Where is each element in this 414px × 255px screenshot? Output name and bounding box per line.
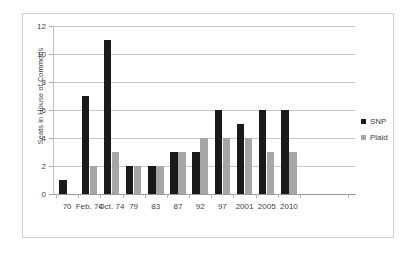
x-tick-mark-5: [189, 194, 190, 198]
x-tick-mark-2: [123, 194, 124, 198]
x-tick-label-87: 87: [174, 202, 183, 211]
x-tick-label-2005: 2005: [258, 202, 276, 211]
x-tick-mark-3: [145, 194, 146, 198]
y-tick-mark-8: [49, 82, 53, 83]
bar-group-79: [123, 26, 145, 194]
plot-area: 024681012 70Feb. 74Oct. 7479838792972001…: [53, 26, 356, 194]
y-tick-mark-10: [49, 54, 53, 55]
y-tick-mark-4: [49, 138, 53, 139]
x-tick-label-2010: 2010: [280, 202, 298, 211]
legend-label-snp: SNP: [370, 117, 386, 126]
bar-snp-2010[interactable]: [281, 110, 288, 194]
bar-group-2005: [256, 26, 278, 194]
x-tick-mark-7: [233, 194, 234, 198]
x-tick-mark-6: [211, 194, 212, 198]
x-tick-label-83: 83: [151, 202, 160, 211]
x-tick-label-2001: 2001: [236, 202, 254, 211]
y-tick-mark-12: [49, 26, 53, 27]
bar-snp-97[interactable]: [215, 110, 222, 194]
y-tick-mark-0: [49, 194, 53, 195]
bar-snp-87[interactable]: [170, 152, 177, 194]
legend-swatch-plaid-icon: [361, 135, 366, 140]
bar-group-Feb74: [78, 26, 100, 194]
x-tick-label-79: 79: [129, 202, 138, 211]
x-tick-mark-10: [300, 194, 301, 198]
legend-label-plaid: Plaid: [370, 133, 388, 142]
bar-plaid-2001[interactable]: [245, 138, 252, 194]
bar-snp-70[interactable]: [59, 180, 66, 194]
legend-swatch-snp-icon: [361, 119, 366, 124]
x-tick-mark-1: [100, 194, 101, 198]
bar-group-2010: [278, 26, 300, 194]
bar-plaid-Oct74[interactable]: [112, 152, 119, 194]
bar-plaid-Feb74[interactable]: [90, 166, 97, 194]
x-tick-label-70: 70: [63, 202, 72, 211]
bar-plaid-97[interactable]: [223, 138, 230, 194]
bar-plaid-87[interactable]: [178, 152, 185, 194]
x-tick-mark-9: [278, 194, 279, 198]
x-tick-mark-end: [348, 194, 349, 198]
gridline-0: [53, 194, 356, 195]
legend-entry-snp[interactable]: SNP: [361, 113, 388, 129]
bar-group-2001: [233, 26, 255, 194]
bar-group-83: [145, 26, 167, 194]
x-tick-label-92: 92: [196, 202, 205, 211]
x-tick-mark-0: [78, 194, 79, 198]
bar-group-97: [211, 26, 233, 194]
bar-snp-Feb74[interactable]: [82, 96, 89, 194]
legend-entry-plaid[interactable]: Plaid: [361, 129, 388, 145]
bar-plaid-92[interactable]: [200, 138, 207, 194]
bar-snp-92[interactable]: [192, 152, 199, 194]
bar-group-Oct74: [100, 26, 122, 194]
y-tick-mark-6: [49, 110, 53, 111]
bar-snp-2001[interactable]: [237, 124, 244, 194]
chart-legend: SNP Plaid: [361, 113, 388, 145]
x-tick-label-Oct74: Oct. 74: [99, 202, 125, 211]
bar-snp-2005[interactable]: [259, 110, 266, 194]
bar-group-70: [56, 26, 78, 194]
y-axis-title: Seats in House of Commons: [35, 26, 47, 166]
bar-plaid-2010[interactable]: [289, 152, 296, 194]
bar-snp-79[interactable]: [126, 166, 133, 194]
x-tick-mark-4: [167, 194, 168, 198]
bar-group-87: [167, 26, 189, 194]
y-tick-label-4: 4: [42, 134, 46, 143]
chart-figure: Seats in House of Commons 024681012 70Fe…: [22, 13, 394, 238]
bar-plaid-2005[interactable]: [267, 152, 274, 194]
y-tick-label-0: 0: [42, 190, 46, 199]
y-tick-label-12: 12: [37, 22, 46, 31]
bar-snp-Oct74[interactable]: [104, 40, 111, 194]
y-axis-spine: [53, 26, 54, 194]
bar-snp-83[interactable]: [148, 166, 155, 194]
y-tick-label-2: 2: [42, 162, 46, 171]
x-tick-label-97: 97: [218, 202, 227, 211]
y-tick-label-8: 8: [42, 78, 46, 87]
bar-group-92: [189, 26, 211, 194]
y-tick-label-10: 10: [37, 50, 46, 59]
x-tick-mark-start: [56, 194, 57, 198]
y-tick-label-6: 6: [42, 106, 46, 115]
x-tick-mark-8: [256, 194, 257, 198]
y-tick-mark-2: [49, 166, 53, 167]
bar-plaid-83[interactable]: [156, 166, 163, 194]
bar-plaid-79[interactable]: [134, 166, 141, 194]
